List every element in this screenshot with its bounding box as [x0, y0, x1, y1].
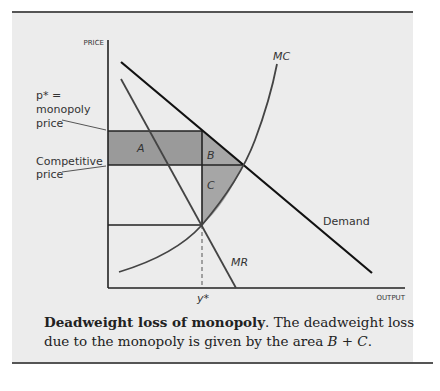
region-c-label: C	[207, 179, 215, 192]
y-axis-label: PRICE	[84, 39, 104, 47]
x-axis-label: OUTPUT	[376, 294, 405, 302]
mc-curve	[119, 64, 277, 272]
region-a	[108, 131, 202, 165]
demand-label: Demand	[323, 215, 370, 228]
competitive-price-label-2: price	[36, 168, 64, 181]
caption-expr: B + C	[328, 333, 368, 349]
figure-caption: Deadweight loss of monopoly. The deadwei…	[44, 313, 424, 351]
bottom-rule	[12, 362, 433, 364]
monopoly-price-label-2: monopoly	[36, 103, 91, 116]
caption-end: .	[368, 333, 372, 349]
mr-label: MR	[231, 256, 248, 269]
region-c	[202, 165, 243, 225]
competitive-price-label-1: Competitive	[36, 155, 103, 168]
caption-title: Deadweight loss of monopoly	[44, 314, 265, 330]
region-a-label: A	[136, 142, 145, 155]
demand-curve	[121, 62, 372, 273]
region-b-label: B	[207, 149, 215, 162]
y-star-label: y*	[196, 292, 210, 305]
monopoly-price-label-3: price	[36, 117, 64, 130]
monopoly-price-label-1: p* =	[36, 89, 61, 102]
mc-label: MC	[273, 50, 290, 63]
